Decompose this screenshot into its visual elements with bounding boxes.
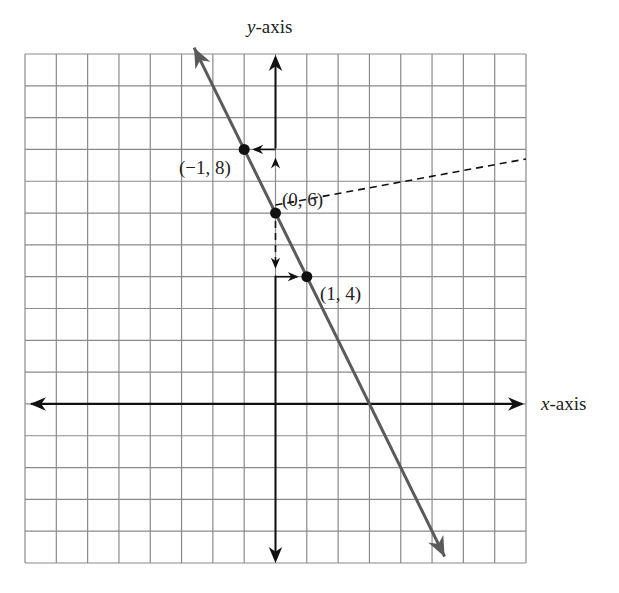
y-axis-label: y-axis <box>245 16 292 37</box>
point-label-1-4: (1, 4) <box>320 283 361 305</box>
data-point <box>301 271 312 282</box>
data-point <box>270 208 281 219</box>
y-axis-letter: y <box>245 16 256 37</box>
x-axis-suffix: -axis <box>549 393 586 414</box>
point-label-0-6: (0, 6) <box>282 189 323 211</box>
coordinate-plane: y-axis x-axis (−1, 8) (0, 6) (1, 4) <box>0 0 619 593</box>
x-axis-label: x-axis <box>540 393 586 414</box>
data-point <box>239 144 250 155</box>
point-label-neg1-8: (−1, 8) <box>179 157 231 179</box>
y-axis-suffix: -axis <box>255 16 292 37</box>
